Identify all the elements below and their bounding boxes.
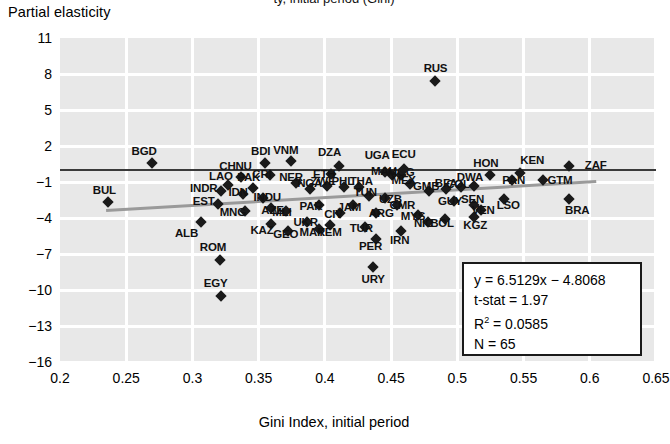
grid-cell	[194, 112, 257, 145]
data-point-label: BUL	[93, 184, 116, 196]
grid-cell	[60, 328, 125, 361]
data-point-label: HON	[473, 157, 498, 169]
grid-cell	[591, 184, 654, 217]
x-tick-label: 0.55	[510, 370, 537, 386]
data-point-label: ZAF	[585, 159, 607, 171]
grid-cell	[393, 112, 456, 145]
grid-cell	[60, 38, 125, 73]
data-point-label: GTM	[547, 174, 572, 186]
data-point-label: PAR	[300, 200, 323, 212]
grid-cell	[128, 38, 191, 73]
data-point-label: KAZ	[250, 224, 273, 236]
data-point-label: EST	[193, 195, 215, 207]
data-point-label: IDN	[229, 186, 248, 198]
grid-cell	[260, 76, 323, 109]
data-point-label: INDU	[254, 191, 281, 203]
stat-equation: y = 6.5129x − 4.8068	[474, 270, 640, 290]
y-tick-label: −16	[2, 354, 52, 370]
grid-cell	[128, 112, 191, 145]
data-point-label: MLI	[272, 206, 291, 218]
x-tick-label: 0.3	[183, 370, 202, 386]
stat-rsquared-value: = 0.0585	[489, 316, 548, 332]
y-axis-title: Partial elasticity	[8, 4, 111, 20]
data-point-label: KEN	[520, 154, 544, 166]
data-point-label: ECU	[392, 148, 416, 160]
y-tick-label: −4	[2, 210, 52, 226]
data-point-label: RUS	[424, 62, 448, 74]
y-tick-label: −13	[2, 318, 52, 334]
grid-cell	[60, 220, 125, 253]
grid-cell	[459, 38, 522, 73]
data-point-label: VNM	[273, 144, 298, 156]
y-tick-label: 2	[2, 138, 52, 154]
grid-cell	[60, 256, 125, 289]
grid-cell	[525, 38, 588, 73]
data-point-label: BOL	[430, 217, 454, 229]
y-tick-label: 11	[2, 30, 52, 46]
x-tick-label: 0.2	[50, 370, 69, 386]
data-point-label: GEO	[273, 228, 298, 240]
grid-cell	[525, 220, 588, 253]
grid-cell	[128, 328, 191, 361]
x-axis-title: Gini Index, initial period	[0, 414, 668, 430]
stat-rsquared: R2 = 0.0585	[474, 310, 640, 334]
data-point-label: IRN	[390, 234, 409, 246]
x-tick-label: 0.25	[113, 370, 140, 386]
x-tick-label: 0.4	[315, 370, 334, 386]
grid-cell	[591, 220, 654, 253]
data-point-label: BGD	[132, 145, 157, 157]
grid-cell	[393, 328, 456, 361]
stat-tstat: t-stat = 1.97	[474, 290, 640, 310]
data-point-label: URY	[362, 273, 385, 285]
data-point-label: CRI	[252, 168, 271, 180]
grid-cell	[128, 76, 191, 109]
data-point-label: UGA	[365, 149, 390, 161]
data-point-label: EGY	[204, 277, 228, 289]
grid-cell	[260, 256, 323, 289]
data-point-label: BRA	[565, 204, 589, 216]
y-tick-label: −7	[2, 246, 52, 262]
statistics-box: y = 6.5129x − 4.8068 t-stat = 1.97 R2 = …	[462, 262, 642, 356]
grid-cell	[260, 328, 323, 361]
x-tick-label: 0.5	[448, 370, 467, 386]
x-tick-label: 0.45	[377, 370, 404, 386]
stat-rsquared-label: R	[474, 316, 484, 332]
data-point-label: LSO	[497, 199, 520, 211]
data-point-label: JAM	[338, 201, 362, 213]
y-tick-label: 8	[2, 66, 52, 82]
grid-cell	[326, 38, 389, 73]
y-tick-label: 5	[2, 102, 52, 118]
grid-cell	[194, 38, 257, 73]
data-point-label: DWA	[457, 171, 483, 183]
data-point-label: DZA	[318, 146, 341, 158]
grid-cell	[60, 292, 125, 325]
grid-cell	[326, 292, 389, 325]
y-tick-label: −10	[2, 282, 52, 298]
grid-cell	[525, 112, 588, 145]
data-point-label: VEN	[472, 204, 495, 216]
grid-cell	[326, 76, 389, 109]
grid-cell	[326, 328, 389, 361]
data-point-label: PER	[359, 240, 382, 252]
data-point-label: ALB	[175, 227, 198, 239]
x-tick-label: 0.6	[580, 370, 599, 386]
grid-cell	[459, 112, 522, 145]
grid-cell	[260, 292, 323, 325]
grid-cell	[60, 76, 125, 109]
data-point-label: ROM	[200, 241, 226, 253]
data-point-label: MNG	[220, 206, 246, 218]
grid-cell	[260, 112, 323, 145]
grid-cell	[393, 76, 456, 109]
grid-cell	[393, 292, 456, 325]
x-tick-label: 0.35	[245, 370, 272, 386]
data-point-label: YEM	[317, 226, 341, 238]
grid-cell	[60, 112, 125, 145]
stat-n: N = 65	[474, 334, 640, 354]
grid-cell	[591, 76, 654, 109]
data-point-label: KGZ	[463, 219, 487, 231]
grid-cell	[128, 292, 191, 325]
data-point-label: INDR	[190, 182, 217, 194]
grid-cell	[326, 112, 389, 145]
grid-cell	[525, 76, 588, 109]
